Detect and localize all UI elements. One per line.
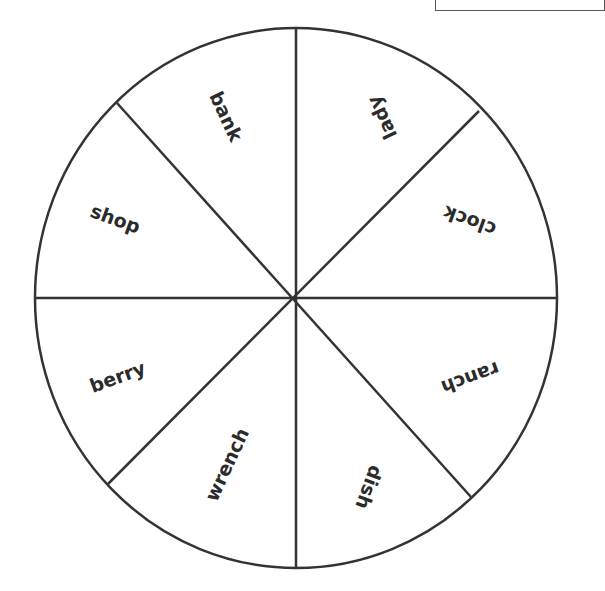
word-label: ranch xyxy=(438,358,502,399)
segment-word-4: dish xyxy=(351,463,387,513)
spoke-diagonal-down xyxy=(117,103,471,497)
segment-word-0: bank xyxy=(205,88,247,145)
segment-word-1: lady xyxy=(362,92,401,143)
segment-word-5: wrench xyxy=(200,424,253,504)
segment-word-3: ranch xyxy=(438,358,502,399)
word-label: clock xyxy=(440,202,499,242)
word-label: dish xyxy=(351,463,387,513)
word-label: berry xyxy=(87,356,149,397)
segment-word-2: clock xyxy=(440,202,499,242)
word-label: lady xyxy=(362,92,401,143)
word-label: shop xyxy=(88,199,144,237)
word-label: bank xyxy=(205,88,247,145)
segment-word-7: shop xyxy=(88,199,144,237)
word-label: wrench xyxy=(200,424,253,504)
segment-word-6: berry xyxy=(87,356,149,397)
